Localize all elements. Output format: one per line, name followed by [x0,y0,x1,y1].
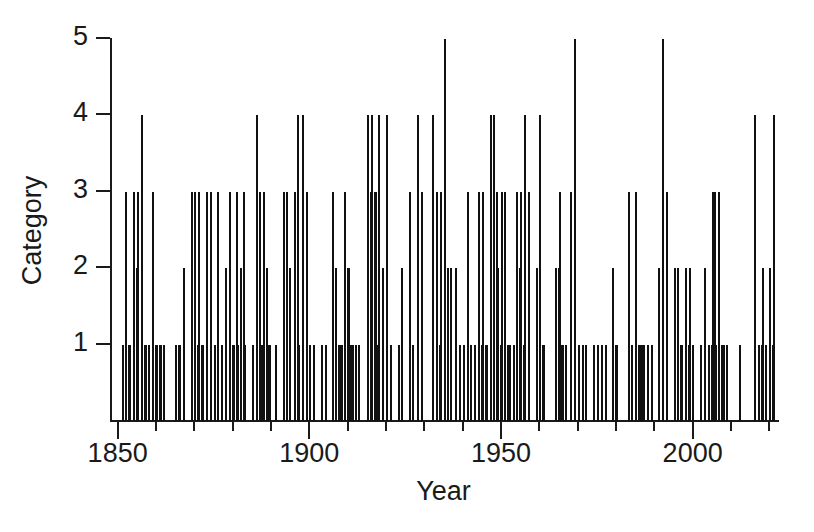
x-tick-1990 [653,421,655,431]
x-tick-1890 [270,421,272,431]
bar [252,345,254,421]
x-tick-1860 [155,421,157,431]
x-tick-1880 [232,421,234,431]
bar [463,345,465,421]
bar [263,192,265,421]
bar [183,268,185,421]
bar [758,345,760,421]
bar [421,192,423,421]
bar [417,115,419,421]
bar [412,345,414,421]
bar [585,345,587,421]
y-axis-label: Category [0,0,66,460]
bar [256,115,258,421]
bar [631,345,633,421]
y-tick-3 [96,190,110,192]
bar [666,192,668,421]
bar [628,192,630,421]
bar [141,115,143,421]
x-axis-label: Year [110,476,777,507]
bar [217,192,219,421]
bar [486,345,488,421]
bar [267,345,269,421]
bar [237,345,239,421]
bar [715,345,717,421]
bar [651,345,653,421]
bar [662,39,664,421]
y-tick-label-2: 2 [20,252,88,279]
bar [674,268,676,421]
bar [565,345,567,421]
bar [597,345,599,421]
bar [352,345,354,421]
bar [313,345,315,421]
x-tick-2010 [730,421,732,431]
bar [504,192,506,421]
bar [175,345,177,421]
bar [432,115,434,421]
bar [726,345,728,421]
bar [459,345,461,421]
bar [382,268,384,421]
bar [358,345,360,421]
bar [769,268,771,421]
bar [401,268,403,421]
bar [240,345,242,421]
bar [739,345,741,421]
x-tick-1930 [423,421,425,431]
bar [605,345,607,421]
bar [528,192,530,421]
bar [344,192,346,421]
bar [692,345,694,421]
bar [436,192,438,421]
bar [156,345,158,421]
bar [578,345,580,421]
x-tick-1970 [577,421,579,431]
x-tick-1900 [308,421,310,439]
bar [145,345,147,421]
x-tick-label-1900: 1900 [249,440,369,467]
bar [643,345,645,421]
bar [482,192,484,421]
bar [478,192,480,421]
bar [509,345,511,421]
x-tick-1910 [347,421,349,431]
bar [275,345,277,421]
x-tick-label-1850: 1850 [58,440,178,467]
bar [367,115,369,421]
bar [754,115,756,421]
x-tick-2000 [692,421,694,439]
x-tick-1850 [117,421,119,439]
bar [582,345,584,421]
bar [152,192,154,421]
x-tick-1960 [538,421,540,431]
bar [700,345,702,421]
y-tick-label-5: 5 [20,23,88,50]
bar [677,268,679,421]
x-tick-2020 [768,421,770,431]
bar [294,192,296,421]
y-tick-label-1: 1 [20,329,88,356]
bar [712,192,714,421]
bar [612,268,614,421]
bar [559,192,561,421]
bar [723,345,725,421]
bar [148,345,150,421]
bar [570,192,572,421]
y-tick-2 [96,266,110,268]
bar [704,268,706,421]
bar [163,345,165,421]
bar [309,345,311,421]
bar [516,192,518,421]
bar [306,192,308,421]
y-tick-1 [96,343,110,345]
bar [398,345,400,421]
bar [562,345,564,421]
bar [298,345,300,421]
bar [450,268,452,421]
y-tick-label-3: 3 [20,176,88,203]
bar [225,268,227,421]
x-tick-1950 [500,421,502,439]
bar [689,268,691,421]
bar [122,345,124,421]
